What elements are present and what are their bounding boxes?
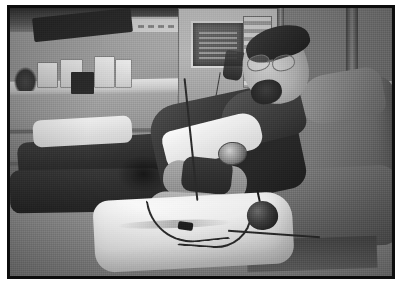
instrument-case: [71, 72, 94, 93]
counter-plant: [14, 67, 37, 91]
photograph: [10, 8, 392, 276]
supply-box: [94, 56, 115, 87]
photo-frame: [0, 0, 402, 287]
drape-sheet-left: [32, 115, 133, 147]
supply-box: [37, 62, 58, 88]
supply-box: [115, 59, 132, 88]
photo-border: [7, 5, 395, 279]
